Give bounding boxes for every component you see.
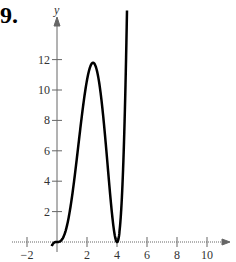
svg-text:4: 4: [44, 174, 50, 188]
chart: 9. y−224681024681012: [0, 0, 236, 262]
svg-text:8: 8: [174, 248, 180, 262]
svg-text:−2: −2: [21, 248, 34, 262]
svg-text:y: y: [53, 3, 60, 17]
plot: y−224681024681012: [0, 0, 236, 262]
svg-text:10: 10: [38, 83, 50, 97]
svg-text:6: 6: [44, 144, 50, 158]
svg-text:12: 12: [38, 53, 50, 67]
svg-text:2: 2: [84, 248, 90, 262]
svg-text:4: 4: [114, 248, 120, 262]
svg-text:2: 2: [44, 205, 50, 219]
svg-text:8: 8: [44, 113, 50, 127]
function-curve: [52, 10, 127, 246]
svg-text:6: 6: [144, 248, 150, 262]
svg-text:10: 10: [201, 248, 213, 262]
